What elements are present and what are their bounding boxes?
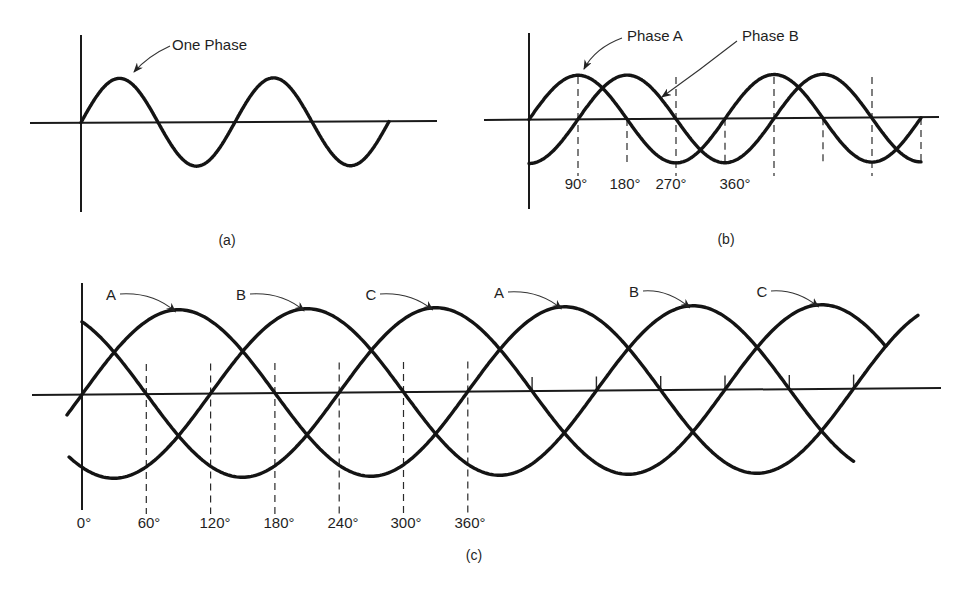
- panel-c-x-axis: [32, 388, 941, 395]
- peak-arrow-icon: [643, 291, 690, 308]
- peak-label-b-1: B: [236, 286, 246, 303]
- phase-b-label: Phase B: [742, 27, 799, 44]
- one-phase-arrow-icon: [134, 46, 170, 72]
- peak-arrow-icon: [380, 294, 433, 310]
- degree-label-180: 180°: [263, 514, 294, 531]
- phase-b-arrow-icon: [662, 41, 737, 97]
- peak-label-a-1: A: [106, 286, 116, 303]
- peak-label-b-2: B: [629, 283, 639, 300]
- peak-arrow-icon: [120, 294, 175, 312]
- degree-label-240: 240°: [327, 514, 358, 531]
- degree-label-60: 60°: [138, 514, 161, 531]
- one-phase-label: One Phase: [172, 36, 247, 53]
- three-phase-diagram: One Phase (a) Phase A Phase B 90° 180° 2…: [0, 0, 971, 591]
- degree-label-360: 360°: [454, 514, 485, 531]
- peak-label-c-2: C: [757, 283, 768, 300]
- panel-a-caption: (a): [218, 232, 235, 248]
- degree-label-300: 300°: [390, 514, 421, 531]
- panel-b-caption: (b): [717, 231, 734, 247]
- degree-label-360: 360°: [719, 175, 750, 192]
- panel-c-three-phase: A B C A B C 0° 60° 120° 180° 240° 300° 3…: [32, 283, 941, 563]
- phase-a-label: Phase A: [627, 27, 683, 44]
- degree-label-0: 0°: [77, 514, 91, 531]
- degree-label-270: 270°: [655, 175, 686, 192]
- peak-label-a-2: A: [494, 284, 504, 301]
- panel-b-two-phase: Phase A Phase B 90° 180° 270° 360° (b): [484, 27, 939, 247]
- panel-c-caption: (c): [466, 547, 482, 563]
- panel-a-single-phase: One Phase (a): [30, 35, 437, 248]
- phase-a-arrow-icon: [584, 38, 622, 69]
- degree-label-120: 120°: [199, 514, 230, 531]
- degree-label-180: 180°: [609, 175, 640, 192]
- peak-arrow-icon: [250, 294, 304, 311]
- peak-label-c-1: C: [366, 286, 377, 303]
- peak-arrow-icon: [508, 292, 561, 309]
- panel-c-gridlines: [146, 362, 853, 515]
- degree-label-90: 90°: [565, 175, 588, 192]
